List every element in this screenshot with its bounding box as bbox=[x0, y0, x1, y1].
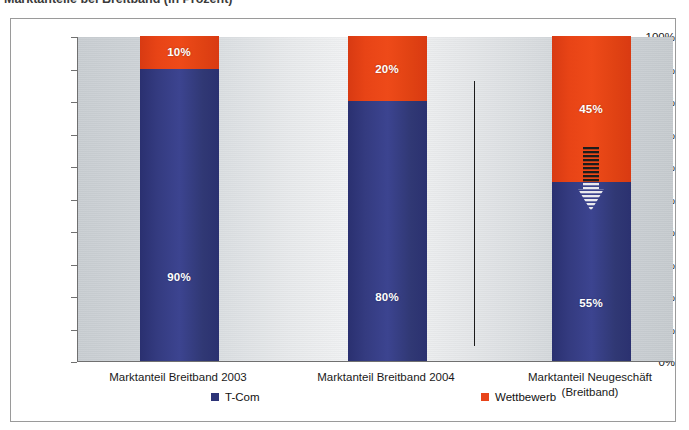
bar-segment-tcom[interactable]: 90% bbox=[140, 69, 219, 362]
bar-segment-wettbewerb[interactable]: 20% bbox=[348, 36, 427, 101]
bar-stack[interactable]: 80%20% bbox=[348, 36, 427, 361]
legend-label: T-Com bbox=[225, 391, 260, 403]
bar-segment-value-label: 20% bbox=[375, 63, 399, 75]
bar-segment-tcom[interactable]: 55% bbox=[552, 182, 631, 361]
y-axis-tick-mark bbox=[71, 362, 77, 363]
plot-area: 90%10%80%20%55%45% bbox=[77, 37, 673, 362]
legend-item[interactable]: Wettbewerb bbox=[481, 391, 556, 403]
x-axis-category-label-line: Marktanteil Breitband 2004 bbox=[281, 370, 491, 385]
chart-caption-strip: Marktanteile bei Breitband (in Prozent) bbox=[0, 0, 689, 14]
bar-segment-value-label: 80% bbox=[375, 291, 399, 303]
bar-stack[interactable]: 55%45% bbox=[552, 36, 631, 361]
group-separator-line bbox=[474, 81, 475, 346]
bar-segment-value-label: 10% bbox=[167, 46, 191, 58]
legend-color-swatch bbox=[211, 393, 219, 401]
bar-segment-wettbewerb[interactable]: 45% bbox=[552, 36, 631, 182]
bar-segment-value-label: 45% bbox=[579, 103, 603, 115]
legend-label: Wettbewerb bbox=[495, 391, 556, 403]
chart-caption: Marktanteile bei Breitband (in Prozent) bbox=[4, 0, 233, 6]
x-axis-category-label-line: Marktanteil Neugeschäft bbox=[485, 370, 689, 385]
legend-color-swatch bbox=[481, 393, 489, 401]
legend-item[interactable]: T-Com bbox=[211, 391, 260, 403]
x-axis-category-label-line: Marktanteil Breitband 2003 bbox=[73, 370, 283, 385]
chart-frame: 0%10%20%30%40%50%60%70%80%90%100% 90%10%… bbox=[10, 18, 676, 422]
x-axis-category-label: Marktanteil Breitband 2003 bbox=[73, 370, 283, 385]
bar-segment-value-label: 90% bbox=[167, 271, 191, 283]
chart-legend: T-ComWettbewerb bbox=[11, 391, 675, 409]
bar-stack[interactable]: 90%10% bbox=[140, 36, 219, 361]
bar-segment-value-label: 55% bbox=[579, 297, 603, 309]
x-axis-category-label: Marktanteil Breitband 2004 bbox=[281, 370, 491, 385]
bar-segment-wettbewerb[interactable]: 10% bbox=[140, 36, 219, 69]
bar-segment-tcom[interactable]: 80% bbox=[348, 101, 427, 361]
